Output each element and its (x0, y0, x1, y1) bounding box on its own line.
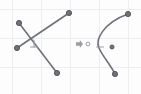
sketch-canvas[interactable] (0, 0, 141, 94)
grid-layer (0, 0, 141, 94)
